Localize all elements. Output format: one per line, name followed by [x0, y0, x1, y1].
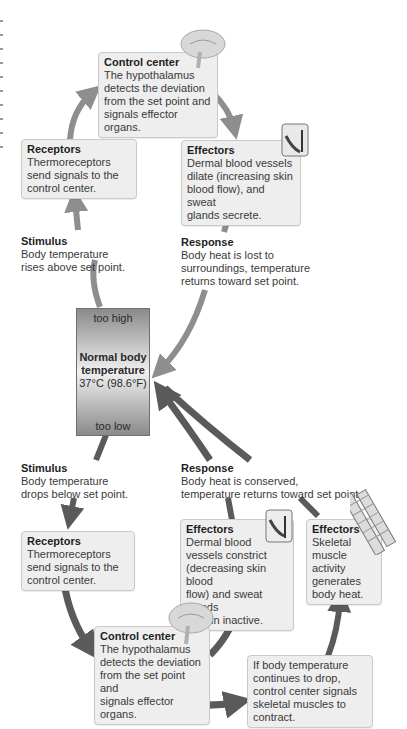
- lower-receptors-box: Receptors Thermoreceptors send signals t…: [21, 531, 135, 591]
- label-text: Body heat is conserved, temperature retu…: [181, 475, 361, 501]
- box-text: Thermoreceptors send signals to the cont…: [27, 548, 129, 587]
- upper-receptors-box: Receptors Thermoreceptors send signals t…: [21, 139, 137, 199]
- upper-stimulus-label: Stimulus Body temperature rises above se…: [21, 235, 125, 274]
- box-title: Receptors: [27, 143, 131, 156]
- label-title: Response: [181, 462, 361, 475]
- box-text: The hypothalamus detects the deviation f…: [104, 69, 212, 134]
- normal-body-temperature-gauge: too high Normal body temperature 37°C (9…: [76, 308, 150, 436]
- box-title: Receptors: [27, 535, 129, 548]
- label-title: Response: [181, 236, 310, 249]
- upper-response-label: Response Body heat is lost to surroundin…: [181, 236, 310, 288]
- brain-icon: [166, 600, 216, 650]
- set-point-title-1: Normal body: [77, 351, 149, 364]
- lower-response-label: Response Body heat is conserved, tempera…: [181, 462, 361, 501]
- box-text: If body temperature continues to drop, c…: [253, 659, 367, 724]
- label-title: Stimulus: [21, 235, 125, 248]
- label-text: Body temperature rises above set point.: [21, 248, 125, 274]
- skin-block-icon: [280, 118, 310, 162]
- skin-block-icon: [264, 506, 294, 550]
- set-point-title-2: temperature: [77, 364, 149, 377]
- box-text: The hypothalamus detects the deviation f…: [100, 643, 204, 721]
- too-high-label: too high: [77, 312, 149, 324]
- label-title: Stimulus: [21, 462, 128, 475]
- shivering-note-box: If body temperature continues to drop, c…: [247, 655, 373, 728]
- set-point-label: Normal body temperature 37°C (98.6°F): [77, 351, 149, 390]
- box-text: Dermal blood vessels dilate (increasing …: [187, 157, 295, 222]
- skeletal-muscle-icon: [350, 485, 400, 559]
- brain-icon: [178, 28, 228, 74]
- set-point-value: 37°C (98.6°F): [77, 377, 149, 390]
- box-title: Effectors: [187, 144, 295, 157]
- too-low-label: too low: [77, 420, 149, 432]
- box-text: Thermoreceptors send signals to the cont…: [27, 156, 131, 195]
- label-text: Body temperature drops below set point.: [21, 475, 128, 501]
- lower-stimulus-label: Stimulus Body temperature drops below se…: [21, 462, 128, 501]
- label-text: Body heat is lost to surroundings, tempe…: [181, 249, 310, 288]
